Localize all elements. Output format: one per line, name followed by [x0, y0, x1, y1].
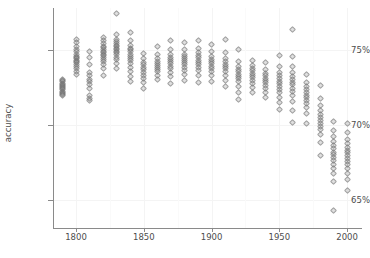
- data-point: [235, 95, 242, 102]
- data-point: [289, 107, 296, 114]
- y-axis-line: [53, 8, 54, 228]
- y-tick-label: 65%: [326, 195, 370, 205]
- data-point: [167, 73, 174, 80]
- data-point: [316, 139, 323, 146]
- data-point: [303, 110, 310, 117]
- data-point: [100, 72, 107, 79]
- data-point: [167, 80, 174, 87]
- data-point: [140, 85, 147, 92]
- data-point: [330, 207, 337, 214]
- gridline-vertical: [279, 8, 280, 228]
- plot-area: [53, 8, 362, 228]
- data-point: [344, 176, 351, 183]
- data-point: [276, 52, 283, 59]
- data-point: [194, 37, 201, 44]
- data-point: [344, 187, 351, 194]
- data-point: [235, 46, 242, 53]
- gridline-vertical-minor: [110, 8, 111, 228]
- data-point: [330, 170, 337, 177]
- data-point: [222, 35, 229, 42]
- data-point: [262, 94, 269, 101]
- data-point: [316, 94, 323, 101]
- data-point: [167, 37, 174, 44]
- gridline-vertical-minor: [245, 8, 246, 228]
- y-axis-title: accuracy: [3, 88, 13, 158]
- data-point: [127, 78, 134, 85]
- x-tick-label: 1900: [201, 232, 223, 242]
- data-point: [154, 76, 161, 83]
- x-tick-label: 2000: [336, 232, 358, 242]
- data-point: [316, 82, 323, 89]
- y-tick-mark: [48, 50, 53, 51]
- data-point: [222, 83, 229, 90]
- data-point: [113, 65, 120, 72]
- data-point: [330, 178, 337, 185]
- x-tick-label: 1800: [65, 232, 87, 242]
- data-point: [208, 78, 215, 85]
- gridline-horizontal: [53, 200, 362, 201]
- gridline-vertical-minor: [313, 8, 314, 228]
- y-tick-mark: [48, 125, 53, 126]
- data-point: [249, 89, 256, 96]
- data-point: [276, 105, 283, 112]
- data-point: [289, 98, 296, 105]
- data-point: [86, 84, 93, 91]
- data-point: [181, 77, 188, 84]
- gridline-vertical-minor: [178, 8, 179, 228]
- y-tick-label: 70%: [326, 120, 370, 130]
- data-point: [127, 29, 134, 36]
- gridline-vertical: [144, 8, 145, 228]
- x-axis-line: [53, 228, 362, 229]
- gridline-horizontal: [53, 125, 362, 126]
- data-point: [208, 41, 215, 48]
- data-point: [316, 151, 323, 158]
- data-point: [262, 59, 269, 66]
- data-point: [289, 53, 296, 60]
- y-tick-mark: [48, 200, 53, 201]
- data-point: [289, 26, 296, 33]
- x-tick-label: 1950: [268, 232, 290, 242]
- data-point: [303, 71, 310, 78]
- y-tick-label: 75%: [326, 45, 370, 55]
- scatter-plot-figure: 65%70%75% 18001850190019502000 accuracy: [0, 0, 370, 258]
- data-point: [113, 10, 120, 17]
- data-point: [86, 61, 93, 68]
- data-point: [316, 131, 323, 138]
- data-point: [235, 88, 242, 95]
- data-point: [194, 79, 201, 86]
- x-tick-label: 1850: [133, 232, 155, 242]
